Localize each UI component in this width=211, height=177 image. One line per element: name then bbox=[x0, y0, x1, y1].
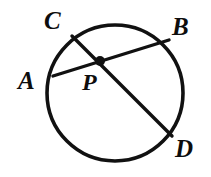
geometry-figure: C B A D P bbox=[0, 0, 211, 177]
point-p-marker bbox=[95, 56, 105, 66]
point-label-c: C bbox=[44, 8, 61, 33]
point-label-d: D bbox=[175, 136, 193, 161]
point-label-p: P bbox=[82, 70, 97, 94]
point-label-b: B bbox=[172, 14, 189, 39]
point-label-a: A bbox=[18, 68, 35, 93]
